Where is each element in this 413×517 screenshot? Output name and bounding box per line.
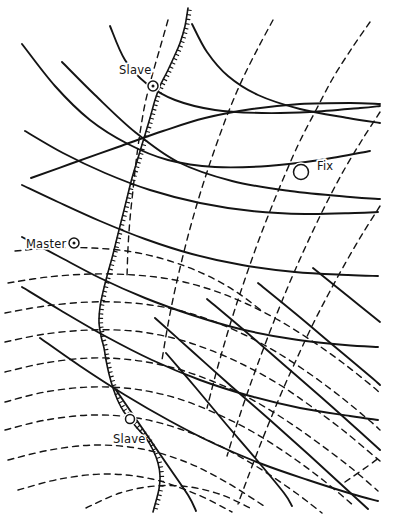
coastline-hachure bbox=[102, 296, 106, 297]
coastline-hachure bbox=[103, 291, 107, 292]
coastline-hachure bbox=[101, 336, 105, 337]
fix-label: Fix bbox=[317, 159, 333, 173]
master-label: Master bbox=[26, 237, 67, 251]
coastline-hachure bbox=[106, 358, 110, 359]
navigation-lattice-figure: SlaveSlaveMasterMasterFixFixSlaveSlave bbox=[0, 0, 413, 517]
coastline-hachure bbox=[100, 331, 104, 332]
slave-north-label: Slave bbox=[119, 63, 151, 77]
lattice-canvas: SlaveSlaveMasterMasterFixFixSlaveSlave bbox=[0, 0, 413, 517]
coastline-hachure bbox=[159, 490, 163, 491]
coastline-hachure bbox=[186, 19, 190, 20]
coastline-hachure bbox=[105, 354, 109, 355]
slave-north-center-dot-icon bbox=[152, 85, 155, 88]
station-marker-master[interactable]: MasterMaster bbox=[26, 236, 81, 251]
coastline-hachure bbox=[101, 300, 105, 301]
coastline-hachure bbox=[107, 363, 111, 364]
coastline-hachure bbox=[108, 367, 112, 368]
coastline-hachure bbox=[186, 24, 190, 25]
slave-south-label: Slave bbox=[113, 432, 145, 446]
coastline-hachure bbox=[188, 10, 192, 11]
coastline-hachure bbox=[104, 349, 108, 350]
coastline-hachure bbox=[159, 467, 163, 468]
master-center-dot-icon bbox=[73, 242, 76, 245]
coastline-hachure bbox=[100, 305, 104, 306]
coastline-hachure bbox=[187, 15, 191, 16]
coastline-hachure bbox=[100, 327, 104, 328]
